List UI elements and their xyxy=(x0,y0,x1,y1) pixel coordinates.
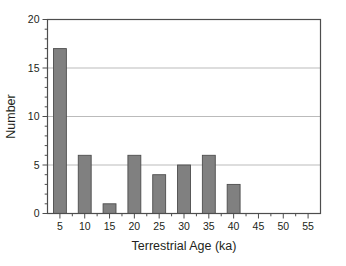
x-tick-label: 5 xyxy=(57,220,63,232)
bar xyxy=(227,184,240,213)
x-tick-label: 30 xyxy=(178,220,190,232)
y-tick-label: 15 xyxy=(28,62,40,74)
y-tick-label: 20 xyxy=(28,13,40,25)
bar xyxy=(53,49,66,214)
bar xyxy=(178,165,191,214)
x-tick-label: 40 xyxy=(228,220,240,232)
x-axis-title: Terrestrial Age (ka) xyxy=(132,239,237,253)
x-tick-label: 20 xyxy=(129,220,141,232)
bar xyxy=(153,175,166,214)
y-tick-label: 0 xyxy=(34,207,40,219)
x-tick-label: 15 xyxy=(104,220,116,232)
chart-background xyxy=(0,0,346,266)
bar xyxy=(103,204,116,214)
bar xyxy=(78,155,91,213)
bar xyxy=(202,155,215,213)
histogram-terrestrial-age: 510152025303540455055 05101520 Terrestri… xyxy=(0,0,346,266)
x-tick-label: 50 xyxy=(277,220,289,232)
y-tick-label: 5 xyxy=(34,159,40,171)
y-tick-label: 10 xyxy=(28,110,40,122)
chart-figure: 510152025303540455055 05101520 Terrestri… xyxy=(0,0,346,266)
y-axis-title: Number xyxy=(4,94,18,138)
bar xyxy=(128,155,141,213)
x-tick-label: 10 xyxy=(79,220,91,232)
x-tick-label: 55 xyxy=(302,220,314,232)
x-tick-label: 45 xyxy=(253,220,265,232)
x-tick-label: 35 xyxy=(203,220,215,232)
x-tick-label: 25 xyxy=(153,220,165,232)
